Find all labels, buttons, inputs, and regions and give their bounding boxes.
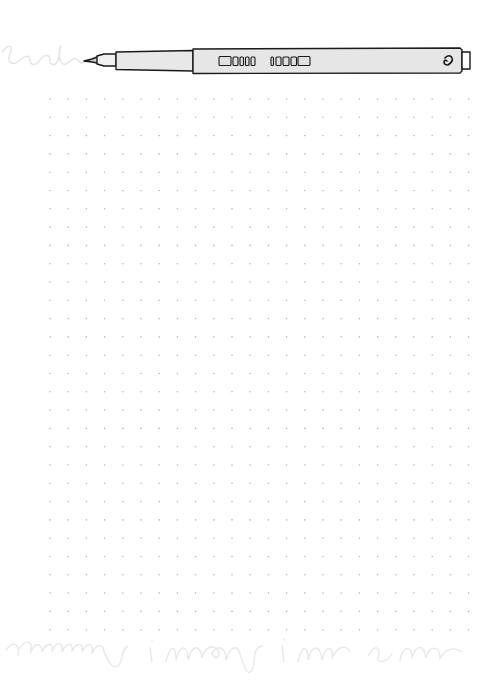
grid-dot — [249, 245, 251, 247]
grid-dot — [286, 592, 288, 594]
grid-dot — [231, 519, 233, 521]
grid-dot — [340, 190, 342, 192]
grid-dot — [395, 519, 397, 521]
grid-dot — [322, 537, 324, 539]
grid-dot — [304, 519, 306, 521]
grid-dot — [413, 135, 415, 137]
grid-dot — [340, 318, 342, 320]
grid-dot — [450, 208, 452, 210]
grid-dot — [122, 556, 124, 558]
grid-dot — [177, 226, 179, 228]
grid-dot — [122, 391, 124, 393]
grid-dot — [304, 537, 306, 539]
grid-dot — [122, 226, 124, 228]
grid-dot — [158, 354, 160, 356]
grid-dot — [431, 135, 433, 137]
grid-dot — [268, 391, 270, 393]
grid-dot — [395, 153, 397, 155]
grid-dot — [450, 171, 452, 173]
grid-dot — [104, 464, 106, 466]
grid-dot — [195, 190, 197, 192]
grid-dot — [140, 354, 142, 356]
grid-dot — [122, 336, 124, 338]
grid-dot — [49, 391, 51, 393]
grid-dot — [140, 483, 142, 485]
grid-dot — [468, 263, 470, 265]
grid-dot — [231, 592, 233, 594]
grid-dot — [359, 190, 361, 192]
grid-dot — [231, 245, 233, 247]
grid-dot — [177, 281, 179, 283]
grid-dot — [304, 336, 306, 338]
grid-dot — [140, 574, 142, 576]
grid-dot — [468, 208, 470, 210]
grid-dot — [86, 153, 88, 155]
grid-dot — [395, 135, 397, 137]
grid-dot — [340, 428, 342, 430]
grid-dot — [104, 428, 106, 430]
grid-dot — [195, 592, 197, 594]
grid-dot — [86, 245, 88, 247]
grid-dot — [450, 409, 452, 411]
grid-dot — [213, 245, 215, 247]
grid-dot — [67, 318, 69, 320]
grid-dot — [158, 171, 160, 173]
grid-dot — [340, 464, 342, 466]
grid-dot — [304, 117, 306, 119]
grid-dot — [304, 245, 306, 247]
grid-dot — [213, 318, 215, 320]
grid-dot — [177, 245, 179, 247]
grid-dot — [67, 245, 69, 247]
grid-dot — [195, 263, 197, 265]
grid-dot — [140, 519, 142, 521]
grid-dot — [268, 208, 270, 210]
grid-dot — [322, 611, 324, 613]
grid-dot — [304, 428, 306, 430]
grid-dot — [450, 135, 452, 137]
grid-dot — [195, 281, 197, 283]
grid-dot — [49, 446, 51, 448]
grid-dot — [286, 117, 288, 119]
grid-dot — [286, 300, 288, 302]
grid-dot — [67, 190, 69, 192]
grid-dot — [268, 354, 270, 356]
grid-dot — [104, 263, 106, 265]
grid-dot — [395, 263, 397, 265]
grid-dot — [431, 428, 433, 430]
grid-dot — [140, 373, 142, 375]
grid-dot — [395, 556, 397, 558]
grid-dot — [468, 611, 470, 613]
grid-dot — [322, 556, 324, 558]
grid-dot — [431, 190, 433, 192]
grid-dot — [340, 226, 342, 228]
grid-dot — [322, 153, 324, 155]
grid-dot — [158, 117, 160, 119]
grid-dot — [304, 318, 306, 320]
grid-dot — [413, 409, 415, 411]
grid-dot — [431, 117, 433, 119]
grid-dot — [49, 318, 51, 320]
grid-dot — [86, 300, 88, 302]
grid-dot — [67, 428, 69, 430]
grid-dot — [104, 519, 106, 521]
grid-dot — [322, 391, 324, 393]
grid-dot — [177, 464, 179, 466]
grid-dot — [377, 611, 379, 613]
grid-dot — [304, 171, 306, 173]
grid-dot — [413, 373, 415, 375]
grid-dot — [195, 501, 197, 503]
grid-dot — [104, 208, 106, 210]
grid-dot — [104, 537, 106, 539]
grid-dot — [340, 537, 342, 539]
grid-dot — [158, 263, 160, 265]
grid-dot — [104, 190, 106, 192]
grid-dot — [340, 208, 342, 210]
grid-dot — [413, 318, 415, 320]
grid-dot — [304, 483, 306, 485]
grid-dot — [413, 446, 415, 448]
grid-dot — [286, 153, 288, 155]
grid-dot — [340, 611, 342, 613]
grid-dot — [450, 336, 452, 338]
grid-dot — [286, 428, 288, 430]
grid-dot — [249, 208, 251, 210]
